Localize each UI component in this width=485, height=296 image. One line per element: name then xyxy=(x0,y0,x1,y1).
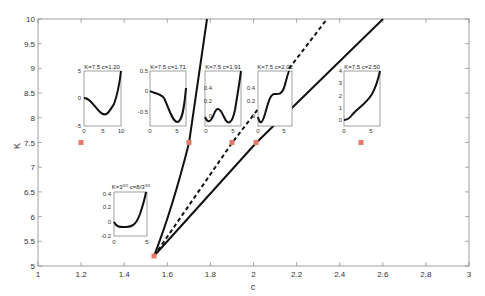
svg-text:0: 0 xyxy=(252,113,256,119)
svg-text:5: 5 xyxy=(78,68,82,74)
svg-text:5: 5 xyxy=(231,128,235,134)
x-tick-label: 2.4 xyxy=(334,270,346,279)
svg-text:0: 0 xyxy=(82,128,86,134)
x-tick-label: 3 xyxy=(467,270,472,279)
svg-text:2: 2 xyxy=(339,93,343,99)
y-tick-label: 10 xyxy=(26,15,35,24)
inset-2: K=7.5 c=1.71 0.5 0 -0.5 0 5 xyxy=(138,64,187,134)
x-axis-label: c xyxy=(251,282,256,292)
svg-text:10: 10 xyxy=(118,128,125,134)
x-tick-label: 2.2 xyxy=(291,270,303,279)
right-boundary-curve xyxy=(154,19,383,256)
middle-dashed-curve xyxy=(154,19,327,256)
x-axis: 11.21.41.61.822.22.42.62.83 xyxy=(36,19,472,279)
x-tick-label: 1.2 xyxy=(76,270,88,279)
x-tick-label: 1 xyxy=(36,270,41,279)
x-tick-label: 1.8 xyxy=(205,270,217,279)
y-tick-label: 7 xyxy=(31,163,36,172)
y-tick-label: 9 xyxy=(31,64,36,73)
svg-text:4: 4 xyxy=(339,68,343,74)
svg-text:5: 5 xyxy=(175,128,179,134)
svg-text:0: 0 xyxy=(342,128,346,134)
marker xyxy=(152,254,157,259)
y-tick-label: 8.5 xyxy=(24,89,36,98)
inset-6: K=33/2 c=8/33/2 0.4 0.2 0 -0.2 0 5 xyxy=(101,183,151,245)
svg-text:0.2: 0.2 xyxy=(103,204,112,210)
svg-text:0.4: 0.4 xyxy=(204,85,213,91)
marker xyxy=(359,140,364,145)
svg-text:5: 5 xyxy=(282,128,286,134)
y-tick-label: 8 xyxy=(31,114,36,123)
y-tick-label: 5 xyxy=(31,262,36,271)
svg-text:0: 0 xyxy=(112,239,116,245)
marker xyxy=(254,140,259,145)
svg-text:5: 5 xyxy=(369,128,373,134)
y-tick-label: 7.5 xyxy=(24,139,36,148)
svg-text:0: 0 xyxy=(78,95,82,101)
svg-text:0: 0 xyxy=(108,219,112,225)
svg-text:-0.5: -0.5 xyxy=(138,109,149,115)
marker xyxy=(79,140,84,145)
svg-text:5: 5 xyxy=(101,128,105,134)
marker xyxy=(230,140,235,145)
svg-text:0: 0 xyxy=(256,128,260,134)
x-tick-label: 1.4 xyxy=(119,270,131,279)
svg-text:0: 0 xyxy=(339,117,343,123)
inset-4: K=7.5 c=2.02 0.4 0.2 0 0 5 xyxy=(247,64,294,134)
y-tick-label: 6 xyxy=(31,213,36,222)
inset-title: K=7.5 c=2.02 xyxy=(257,64,293,70)
inset-title: K=7.5 c=1.20 xyxy=(84,64,120,70)
y-tick-label: 5.5 xyxy=(24,237,36,246)
y-tick-label: 6.5 xyxy=(24,188,36,197)
inset-title: K=33/2 c=8/33/2 xyxy=(112,183,151,190)
x-tick-label: 1.6 xyxy=(162,270,174,279)
x-tick-label: 2 xyxy=(251,270,256,279)
y-tick-label: 9.5 xyxy=(24,40,36,49)
marker xyxy=(187,140,192,145)
y-axis-label: K xyxy=(12,143,22,149)
svg-text:1: 1 xyxy=(339,105,343,111)
svg-text:5: 5 xyxy=(145,239,149,245)
x-tick-label: 2.6 xyxy=(377,270,389,279)
svg-text:-5: -5 xyxy=(76,123,82,129)
inset-3: K=7.5 c=1.91 0.4 0.2 0 0 5 xyxy=(204,64,242,134)
svg-text:-0.2: -0.2 xyxy=(101,233,112,239)
inset-title: K=7.5 c=1.91 xyxy=(205,64,241,70)
svg-text:0.2: 0.2 xyxy=(247,98,256,104)
svg-text:0: 0 xyxy=(204,128,208,134)
svg-text:0.4: 0.4 xyxy=(247,85,256,91)
inset-title: K=7.5 c=1.71 xyxy=(150,64,186,70)
y-axis: 55.566.577.588.599.510 xyxy=(24,15,469,271)
chart: 11.21.41.61.822.22.42.62.83 55.566.577.5… xyxy=(0,0,485,296)
inset-1: K=7.5 c=1.20 5 0 -5 0 5 10 xyxy=(76,64,125,134)
svg-text:0.5: 0.5 xyxy=(140,68,149,74)
svg-text:0: 0 xyxy=(148,128,152,134)
svg-text:0.4: 0.4 xyxy=(103,191,112,197)
svg-text:0: 0 xyxy=(145,88,149,94)
svg-text:3: 3 xyxy=(339,80,343,86)
inset-title: K=7.5 c=2.50 xyxy=(344,64,380,70)
left-boundary-curve xyxy=(154,19,207,256)
x-tick-label: 2.8 xyxy=(420,270,432,279)
svg-text:0.2: 0.2 xyxy=(204,98,213,104)
inset-5: K=7.5 c=2.50 4 3 2 1 0 0 5 xyxy=(339,64,381,134)
